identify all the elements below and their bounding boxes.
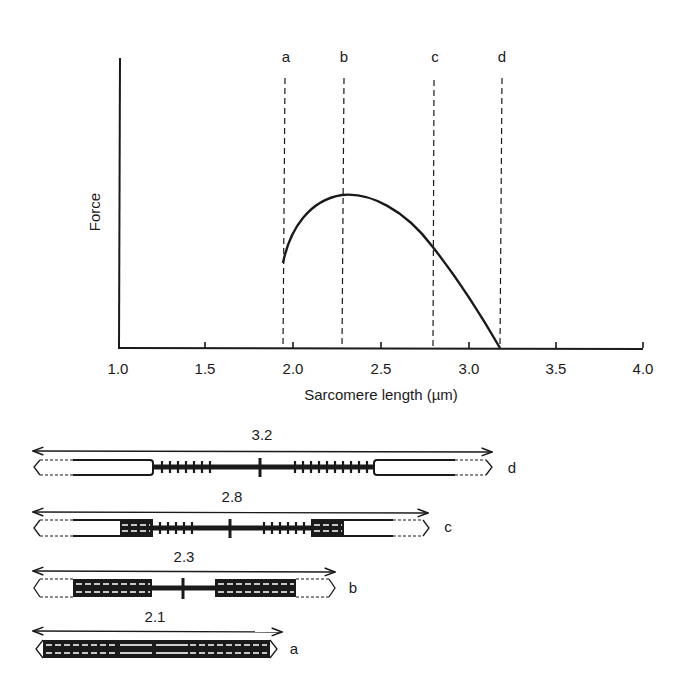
marker-line-d	[500, 78, 502, 348]
x-tick-labels: 1.0 1.5 2.0 2.5 3.0 3.5 4.0	[108, 360, 654, 377]
x-tick-label: 1.0	[108, 360, 129, 377]
x-ticks	[205, 342, 643, 348]
x-tick-label: 1.5	[195, 360, 216, 377]
force-length-chart: 1.0 1.5 2.0 2.5 3.0 3.5 4.0 Sarcomere le…	[86, 48, 653, 403]
sarcomere-length-label: 2.3	[174, 548, 195, 565]
length-arrow	[33, 631, 282, 632]
x-tick-label: 3.5	[546, 360, 567, 377]
reference-lines	[283, 78, 502, 348]
y-axis-label: Force	[86, 193, 103, 231]
length-arrow	[33, 451, 492, 452]
length-tension-figure: 1.0 1.5 2.0 2.5 3.0 3.5 4.0 Sarcomere le…	[0, 0, 686, 693]
x-tick-label: 4.0	[633, 360, 654, 377]
sarcomere-label: b	[349, 579, 357, 596]
sarcomere-label: a	[290, 640, 299, 657]
sarcomere-label: c	[444, 518, 452, 535]
marker-label-a: a	[282, 48, 291, 65]
x-tick-label: 3.0	[459, 360, 480, 377]
sarcomere-label: d	[508, 459, 516, 476]
x-tick-label: 2.0	[283, 360, 304, 377]
marker-label-b: b	[340, 48, 348, 65]
marker-line-c	[433, 80, 434, 348]
marker-label-d: d	[498, 48, 506, 65]
marker-line-b	[342, 78, 344, 348]
sarcomere-a: 2.1 a	[33, 608, 299, 658]
sarcomere-b: 2.3 b	[33, 548, 357, 599]
marker-label-c: c	[431, 48, 439, 65]
y-axis	[119, 58, 120, 349]
force-curve	[283, 195, 500, 348]
length-arrow	[33, 571, 335, 572]
x-axis	[119, 348, 643, 349]
sarcomere-c: 2.8 c	[33, 488, 452, 538]
x-axis-label: Sarcomere length (µm)	[304, 386, 458, 403]
sarcomere-length-label: 2.1	[145, 608, 166, 625]
sarcomere-length-label: 2.8	[222, 488, 243, 505]
x-tick-label: 2.5	[371, 360, 392, 377]
marker-line-a	[283, 78, 285, 348]
sarcomere-length-label: 3.2	[252, 426, 273, 443]
length-arrow	[33, 512, 428, 513]
sarcomere-d: 3.2 d	[33, 426, 516, 477]
